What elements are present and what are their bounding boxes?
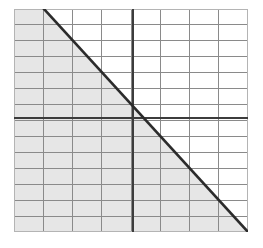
graph-svg xyxy=(0,0,263,248)
graph-figure xyxy=(0,0,263,248)
